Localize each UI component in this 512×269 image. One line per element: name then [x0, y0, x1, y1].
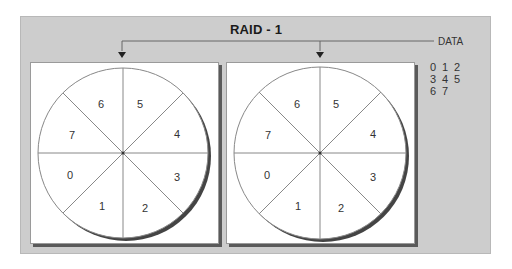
sector-label: 7 [69, 129, 75, 141]
sector-label: 3 [174, 171, 180, 183]
sector-label: 1 [295, 200, 301, 212]
sector-label: 5 [137, 98, 143, 110]
sector-label: 1 [99, 200, 105, 212]
sector-label: 7 [265, 129, 271, 141]
sector-label: 5 [333, 98, 339, 110]
sector-label: 6 [98, 98, 104, 110]
sector-label: 4 [174, 128, 180, 140]
data-flow-connector [118, 41, 434, 58]
diagram-graphics: 0 1 2 3 4 5 6 7 0 1 2 3 4 5 6 7 [0, 0, 512, 269]
arrow-down-icon [316, 52, 324, 58]
sector-label: 2 [338, 202, 344, 214]
sector-label: 3 [370, 171, 376, 183]
sector-label: 2 [142, 202, 148, 214]
disk-platter-2 [234, 67, 409, 242]
sector-label: 4 [370, 128, 376, 140]
sector-label: 6 [294, 98, 300, 110]
arrow-down-icon [118, 52, 126, 58]
sector-label: 0 [67, 169, 73, 181]
disk-platter-1 [38, 68, 211, 241]
sector-label: 0 [264, 169, 270, 181]
